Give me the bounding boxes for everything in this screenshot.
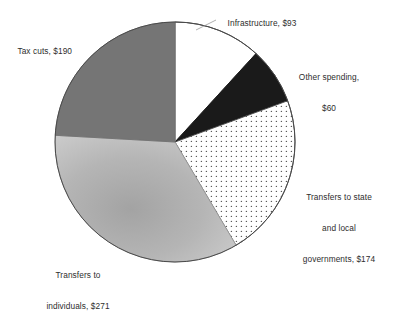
label-transfers-individuals-line1: Transfers to: [20, 270, 136, 280]
label-transfers-state-line2: and local: [280, 223, 398, 233]
label-tax-cuts-text: Tax cuts, $190: [17, 46, 72, 56]
label-infrastructure: Infrastructure, $93: [218, 8, 296, 39]
pie-slice-tax-cuts: [55, 22, 175, 142]
label-transfers-state-line1: Transfers to state: [280, 192, 398, 202]
label-transfers-individuals-line2: individuals, $271: [20, 301, 136, 311]
label-other-spending-line1: Other spending,: [286, 72, 372, 82]
label-tax-cuts: Tax cuts, $190: [8, 36, 72, 67]
label-transfers-state-local: Transfers to state and local governments…: [280, 172, 398, 284]
label-infrastructure-text: Infrastructure, $93: [228, 18, 297, 28]
label-other-spending: Other spending, $60: [286, 52, 372, 134]
label-transfers-state-line3: governments, $174: [280, 254, 398, 264]
label-other-spending-line2: $60: [286, 103, 372, 113]
label-transfers-individuals: Transfers to individuals, $271: [20, 250, 136, 315]
